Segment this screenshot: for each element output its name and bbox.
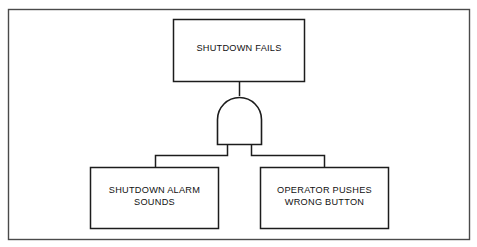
- and-gate: [218, 98, 262, 145]
- basic-event-right-label-line1: OPERATOR PUSHES: [277, 185, 372, 195]
- basic-event-left-label-line1: SHUTDOWN ALARM: [109, 185, 200, 195]
- basic-event-right-label-line2: WRONG BUTTON: [285, 197, 364, 207]
- fault-tree-canvas: SHUTDOWN FAILS SHUTDOWN ALARM SOUNDS OPE…: [0, 0, 477, 247]
- fault-tree-diagram: SHUTDOWN FAILS SHUTDOWN ALARM SOUNDS OPE…: [0, 0, 477, 247]
- basic-event-left-label-line2: SOUNDS: [134, 197, 175, 207]
- top-event-label: SHUTDOWN FAILS: [196, 43, 281, 53]
